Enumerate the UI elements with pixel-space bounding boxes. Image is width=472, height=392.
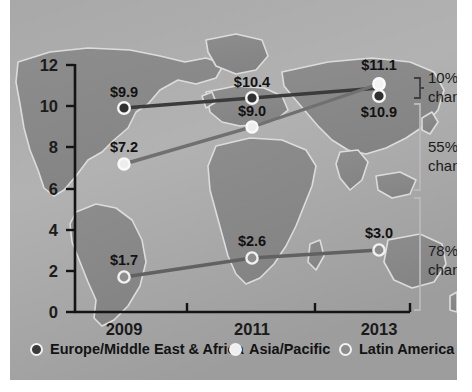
y-tick-4: 4 — [49, 221, 59, 239]
label-asia-2011: $9.0 — [238, 103, 266, 119]
bracket-55-percent — [414, 104, 420, 190]
x-axis-ticks — [187, 303, 410, 312]
marker-asia-2009 — [118, 158, 129, 169]
marker-europe-2013 — [373, 90, 385, 102]
legend-marker-europe-icon — [30, 343, 43, 356]
legend-item-latam[interactable]: Latin America — [339, 336, 454, 362]
label-europe-2013: $10.9 — [361, 104, 397, 120]
annotation-10-percent-value: 10% — [428, 69, 457, 86]
chart-panel: 12 10 8 6 4 2 0 2009 2011 — [10, 0, 457, 380]
label-asia-2009: $7.2 — [110, 139, 138, 155]
label-europe-2009: $9.9 — [110, 84, 138, 100]
label-latam-2013: $3.0 — [365, 225, 393, 241]
y-tick-10: 10 — [40, 97, 58, 115]
legend-marker-latam-icon — [339, 343, 352, 356]
legend-label-latam: Latin America — [359, 341, 454, 357]
annotation-55-percent-value: 55% — [428, 138, 457, 155]
marker-latam-2009 — [118, 271, 129, 282]
label-latam-2009: $1.7 — [110, 252, 138, 268]
legend-label-europe: Europe/Middle East & Africa — [50, 341, 244, 357]
label-asia-2013: $11.1 — [361, 57, 397, 73]
y-tick-6: 6 — [49, 180, 58, 198]
y-axis-tick-labels: 12 10 8 6 4 2 0 — [40, 56, 59, 321]
legend-item-asia[interactable]: Asia/Pacific — [229, 336, 330, 362]
bracket-10-percent — [414, 78, 424, 98]
markers-latam — [118, 244, 384, 282]
marker-latam-2013 — [373, 244, 384, 255]
chart-legend: Europe/Middle East & Africa Asia/Pacific… — [10, 336, 457, 362]
y-axis-ticks — [66, 65, 75, 312]
legend-label-asia: Asia/Pacific — [249, 341, 330, 357]
annotation-78-percent-value: 78% — [428, 242, 457, 259]
marker-latam-2011 — [246, 252, 257, 263]
marker-asia-2013 — [373, 78, 385, 90]
y-tick-12: 12 — [40, 56, 58, 74]
y-tick-0: 0 — [49, 303, 58, 321]
legend-marker-asia-icon — [229, 343, 242, 356]
marker-europe-2009 — [118, 102, 130, 114]
annotation-78-percent-word: change — [428, 261, 457, 278]
marker-asia-2011 — [246, 121, 257, 132]
label-latam-2011: $2.6 — [238, 233, 266, 249]
legend-item-europe[interactable]: Europe/Middle East & Africa — [30, 336, 244, 362]
y-tick-2: 2 — [49, 262, 58, 280]
annotation-55-percent-word: change — [428, 157, 457, 174]
annotation-10-percent-word: change — [428, 88, 457, 105]
chart-screenshot: 12 10 8 6 4 2 0 2009 2011 — [0, 0, 472, 392]
plot-area: 12 10 8 6 4 2 0 2009 2011 — [10, 0, 457, 380]
y-tick-8: 8 — [49, 138, 58, 156]
bracket-78-percent — [414, 198, 420, 310]
label-europe-2011: $10.4 — [234, 74, 270, 90]
